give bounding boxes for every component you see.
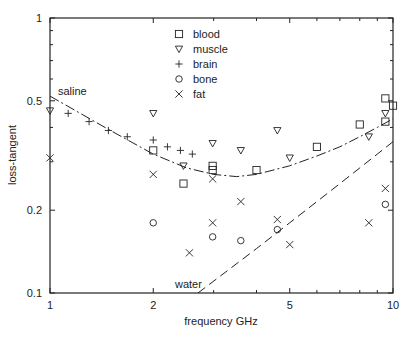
x-tick-label: 10 (387, 299, 399, 311)
brain-legend-marker (175, 60, 182, 67)
brain-point (150, 136, 157, 143)
bone-point (209, 234, 215, 240)
data-points (46, 95, 396, 257)
fat-point (365, 219, 372, 226)
blood-point (313, 143, 320, 150)
fat-point (382, 185, 389, 192)
bone-point (150, 220, 156, 226)
fat-legend-marker (175, 90, 182, 97)
muscle-point (150, 110, 157, 116)
legend-label-brain: brain (193, 58, 217, 70)
bone-legend-marker (176, 76, 182, 82)
fat-point (237, 198, 244, 205)
axis-ticks: 125100.10.20.51 (27, 12, 399, 311)
muscle-point (237, 148, 244, 154)
brain-point (189, 150, 196, 157)
water-curve (198, 142, 393, 293)
fat-point (209, 219, 216, 226)
y-tick-label: 0.2 (27, 204, 42, 216)
bone-point (238, 237, 244, 243)
fat-point (186, 249, 193, 256)
legend-label-bone: bone (193, 73, 217, 85)
legend: bloodmusclebrainbonefat (175, 28, 227, 100)
brain-point (65, 110, 72, 117)
blood-point (382, 95, 389, 102)
blood-point (209, 166, 216, 173)
muscle-point (286, 155, 293, 161)
x-tick-label: 1 (47, 299, 53, 311)
chart-container: 125100.10.20.51 bloodmusclebrainbonefat … (0, 0, 409, 337)
bone-point (382, 201, 388, 207)
x-tick-label: 5 (287, 299, 293, 311)
brain-point (105, 127, 112, 134)
x-axis-label: frequency GHz (184, 315, 257, 327)
brain-point (177, 147, 184, 154)
y-tick-label: 1 (36, 12, 42, 24)
y-tick-label: 0.5 (27, 95, 42, 107)
muscle-point (382, 110, 389, 116)
blood-legend-marker (175, 30, 182, 37)
saline-curve (50, 96, 393, 177)
x-tick-label: 2 (150, 299, 156, 311)
axes-box (50, 18, 393, 293)
brain-point (85, 118, 92, 125)
plot-frame (50, 18, 393, 293)
loss-tangent-chart: 125100.10.20.51 bloodmusclebrainbonefat … (0, 0, 409, 337)
muscle-point (209, 141, 216, 147)
muscle-point (274, 128, 281, 134)
y-axis-label: loss-tangent (6, 125, 18, 185)
fat-point (286, 241, 293, 248)
fat-point (209, 175, 216, 182)
blood-point (209, 162, 216, 169)
model-curves (50, 96, 393, 293)
legend-label-muscle: muscle (193, 43, 228, 55)
brain-point (124, 133, 131, 140)
legend-label-fat: fat (193, 88, 205, 100)
muscle-point (365, 134, 372, 140)
fat-point (274, 216, 281, 223)
water-curve-label: water (174, 278, 202, 290)
brain-point (164, 143, 171, 150)
blood-point (253, 166, 260, 173)
fat-point (150, 171, 157, 178)
blood-point (356, 121, 363, 128)
legend-label-blood: blood (193, 28, 220, 40)
muscle-legend-marker (175, 46, 182, 52)
saline-curve-label: saline (58, 85, 87, 97)
y-tick-label: 0.1 (27, 287, 42, 299)
blood-point (180, 180, 187, 187)
